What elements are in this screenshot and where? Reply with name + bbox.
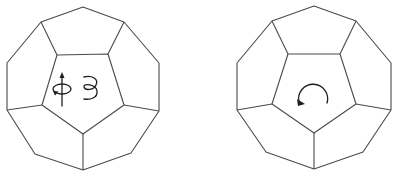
circular-arrow-icon (297, 84, 328, 106)
figure-canvas: Two dodecahedra viewed face-on; left sho… (0, 0, 398, 175)
right-radial-edges (237, 21, 391, 169)
left-radial-edges (7, 22, 159, 170)
left-dodecahedron (7, 7, 159, 170)
axis-rotation-icon (53, 72, 71, 106)
helix-icon (84, 76, 97, 99)
left-center-pentagon (42, 54, 124, 134)
right-center-pentagon (272, 54, 356, 133)
dodecahedra-diagram (0, 0, 398, 175)
right-dodecahedron (237, 6, 391, 169)
